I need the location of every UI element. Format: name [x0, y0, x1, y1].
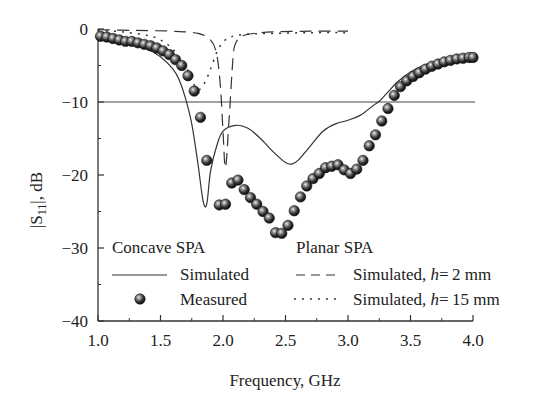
- y-axis-label-text: |S11|, dB: [27, 172, 49, 228]
- x-tick-label: 2.5: [275, 331, 296, 350]
- data-point: [377, 116, 387, 126]
- series-layer: [95, 30, 478, 239]
- x-tick-label: 2.0: [212, 331, 233, 350]
- data-point: [202, 155, 212, 165]
- data-point: [364, 141, 374, 151]
- y-tick-label: −40: [61, 312, 88, 331]
- data-point: [389, 90, 399, 100]
- data-point: [177, 60, 187, 70]
- x-axis-label: Frequency, GHz: [229, 371, 341, 390]
- y-tick-label: −30: [61, 239, 88, 258]
- data-point: [289, 206, 299, 216]
- legend-group-title: Planar SPA: [296, 238, 374, 257]
- x-tick-label: 3.5: [400, 331, 421, 350]
- x-tick-label: 1.0: [87, 331, 108, 350]
- data-point: [468, 52, 478, 62]
- measured-markers: [95, 31, 478, 239]
- y-tick-label: 0: [80, 20, 89, 39]
- y-tick-label: −20: [61, 166, 88, 185]
- x-tick-label: 1.5: [150, 331, 171, 350]
- legend-label: Measured: [180, 290, 248, 309]
- s11-chart: 0−10−20−30−401.01.52.02.53.03.54.0 |S11|…: [0, 0, 559, 401]
- data-point: [264, 213, 274, 223]
- legend-marker-swatch: [135, 294, 145, 304]
- concave-simulated-line: [98, 36, 473, 207]
- legend: Concave SPASimulatedMeasuredPlanar SPASi…: [112, 238, 500, 309]
- legend-label: Simulated: [180, 265, 249, 284]
- x-tick-label: 3.0: [337, 331, 358, 350]
- legend-label: Simulated, h= 15 mm: [353, 290, 500, 309]
- data-point: [358, 155, 368, 165]
- data-point: [295, 192, 305, 202]
- data-point: [370, 130, 380, 140]
- legend-group-title: Concave SPA: [112, 238, 206, 257]
- data-point: [220, 199, 230, 209]
- data-point: [383, 103, 393, 113]
- data-point: [233, 175, 243, 185]
- data-point: [189, 86, 199, 96]
- planar-h2mm-line: [98, 30, 348, 168]
- y-tick-label: −10: [61, 93, 88, 112]
- data-point: [183, 71, 193, 81]
- data-point: [195, 112, 205, 122]
- y-axis-label: |S11|, dB: [27, 172, 49, 228]
- legend-label: Simulated, h= 2 mm: [353, 265, 491, 284]
- x-tick-label: 4.0: [462, 331, 483, 350]
- data-point: [283, 220, 293, 230]
- data-point: [352, 164, 362, 174]
